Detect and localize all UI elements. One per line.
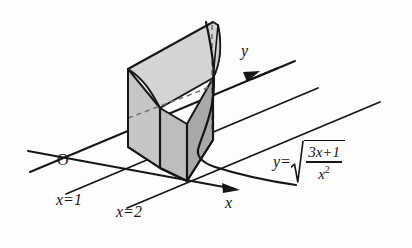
figure-canvas: O x=1 x=2 x y y = 3x+1 x2 (0, 0, 412, 248)
denominator-base: x (318, 166, 325, 182)
solid-body (128, 22, 220, 181)
square-root-group: 3x+1 x2 (291, 140, 345, 184)
label-x-equals-2: x=2 (116, 203, 142, 221)
curve-equation-label: y = 3x+1 x2 (273, 140, 345, 184)
x-axis-arrowhead (222, 183, 240, 193)
solid-diagram-svg (0, 0, 412, 248)
y-axis-label: y (241, 42, 248, 60)
fraction-numerator: 3x+1 (306, 144, 342, 162)
equation-equals-sign: = (281, 153, 290, 171)
square-root-sign-icon (291, 140, 304, 184)
x-axis-label: x (225, 194, 232, 212)
y-axis-extension (252, 61, 295, 79)
origin-label: O (57, 151, 69, 169)
radicand-fraction: 3x+1 x2 (304, 140, 345, 184)
fraction-denominator: x2 (316, 163, 332, 183)
equation-lhs: y (273, 153, 280, 171)
label-x-equals-1: x=1 (56, 191, 82, 209)
denominator-exponent: 2 (325, 164, 330, 175)
